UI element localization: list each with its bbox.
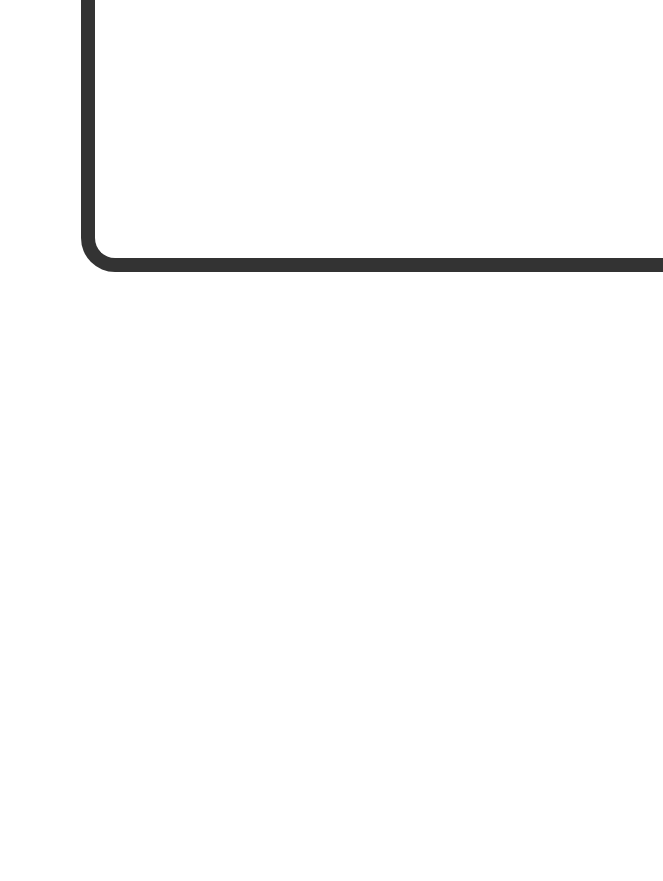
rounded-corner-frame-stroke — [81, 0, 663, 272]
blank-canvas — [0, 0, 663, 881]
